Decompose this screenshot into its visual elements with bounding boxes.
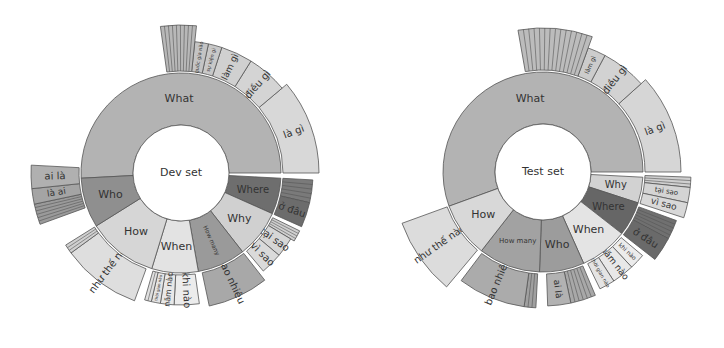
outer-label-khi-nao: khi nào <box>180 271 193 308</box>
chart-title: Dev set <box>160 166 203 179</box>
inner-label-how-many: How many <box>499 237 536 245</box>
inner-label-where: Where <box>237 184 269 195</box>
inner-label-where: Where <box>592 201 624 212</box>
sunburst-figure: là gìđiều gìlàm gìsự kiện gìquốc gia nào… <box>0 0 724 348</box>
inner-label-who: Who <box>98 188 123 201</box>
chart-title: Test set <box>521 165 565 178</box>
inner-label-what: What <box>165 92 195 105</box>
test-set-sunburst: là gìđiều gìlàm gìtại saovì saoở đâukhi … <box>402 28 691 308</box>
inner-label-why: Why <box>227 212 252 225</box>
inner-label-when: When <box>573 223 605 236</box>
inner-label-how: How <box>124 225 148 238</box>
inner-label-why: Why <box>605 179 627 190</box>
outer-segment-segment <box>160 25 196 72</box>
inner-label-when: When <box>161 240 193 253</box>
outer-label-ai-la: ai là <box>44 170 65 182</box>
inner-label-what: What <box>516 92 546 105</box>
inner-label-who: Who <box>545 238 570 251</box>
dev-set-sunburst: là gìđiều gìlàm gìsự kiện gìquốc gia nào… <box>31 25 319 308</box>
inner-label-how: How <box>471 208 495 221</box>
